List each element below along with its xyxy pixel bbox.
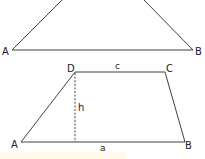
trapezoid-side-cb xyxy=(165,72,185,142)
geometry-diagram: A B D C A B c a h xyxy=(0,0,205,159)
triangle: A B xyxy=(2,0,202,57)
triangle-vertex-b-label: B xyxy=(195,46,202,57)
trapezoid-vertex-b-label: B xyxy=(185,140,192,151)
trapezoid-side-ad xyxy=(21,72,75,142)
trapezoid: D C A B c a h xyxy=(11,61,192,153)
triangle-vertex-a-label: A xyxy=(2,46,9,57)
trapezoid-height-label: h xyxy=(78,102,84,113)
trapezoid-side-c-label: c xyxy=(115,61,120,71)
trapezoid-side-a-label: a xyxy=(100,143,106,153)
trapezoid-vertex-a-label: A xyxy=(11,139,18,150)
triangle-left-side xyxy=(12,0,62,50)
trapezoid-vertex-d-label: D xyxy=(67,63,75,74)
triangle-right-side xyxy=(144,0,193,50)
trapezoid-vertex-c-label: C xyxy=(166,63,173,74)
